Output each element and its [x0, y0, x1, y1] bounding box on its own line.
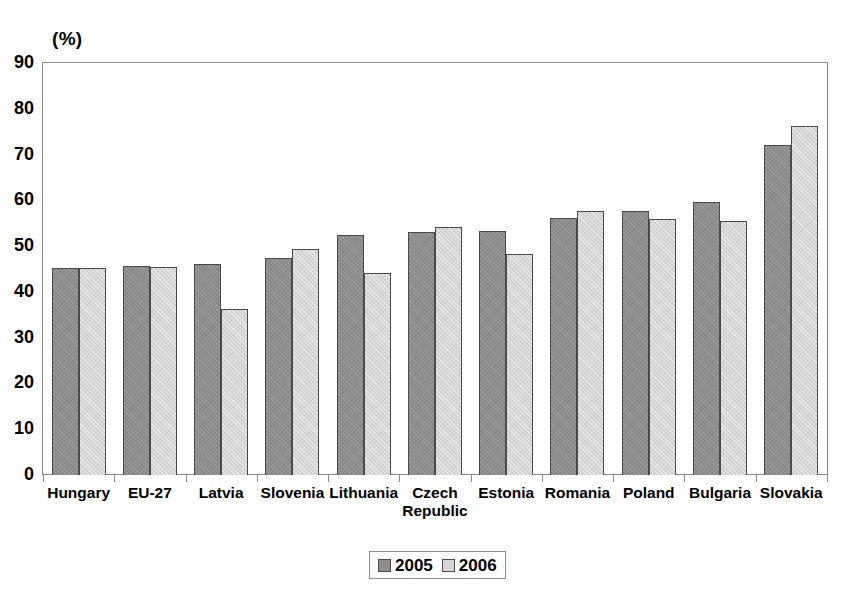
x-tick-mark — [542, 475, 543, 482]
bar-group — [756, 63, 827, 475]
bar-eu-27-2006 — [150, 267, 177, 475]
x-label-slovenia: Slovenia — [257, 484, 328, 520]
bar-group — [542, 63, 613, 475]
chart-legend: 2005 2006 — [369, 551, 506, 579]
y-tick-label-90: 90 — [14, 52, 34, 73]
x-label-bulgaria: Bulgaria — [684, 484, 755, 520]
legend-label-2006: 2006 — [459, 557, 497, 574]
x-tick-mark — [827, 475, 828, 482]
x-label-czech-republic: Czech Republic — [399, 484, 470, 520]
x-label-lithuania: Lithuania — [328, 484, 399, 520]
bar-romania-2005 — [550, 218, 577, 475]
bar-slovenia-2006 — [292, 249, 319, 475]
x-label-slovakia: Slovakia — [756, 484, 827, 520]
bar-romania-2006 — [577, 211, 604, 475]
y-axis-unit-label: (%) — [52, 28, 82, 50]
bar-poland-2006 — [649, 219, 676, 475]
bar-group — [43, 63, 114, 475]
y-tick-label-30: 30 — [14, 326, 34, 347]
bar-group — [684, 63, 755, 475]
bar-group — [613, 63, 684, 475]
x-tick-mark — [257, 475, 258, 482]
x-axis-ticks — [43, 475, 827, 482]
y-tick-label-20: 20 — [14, 372, 34, 393]
y-tick-label-80: 80 — [14, 97, 34, 118]
y-axis: 9080706050403020100 — [0, 62, 42, 475]
bar-hungary-2006 — [79, 268, 106, 475]
bar-group — [399, 63, 470, 475]
y-tick-label-60: 60 — [14, 189, 34, 210]
x-tick-mark — [613, 475, 614, 482]
bar-eu-27-2005 — [123, 266, 150, 475]
bar-group — [114, 63, 185, 475]
x-tick-mark — [328, 475, 329, 482]
x-label-latvia: Latvia — [186, 484, 257, 520]
x-label-hungary: Hungary — [43, 484, 114, 520]
bar-lithuania-2005 — [337, 235, 364, 475]
light-gray-swatch-icon — [442, 559, 455, 572]
x-tick-mark — [399, 475, 400, 482]
bar-group — [257, 63, 328, 475]
bar-poland-2005 — [622, 211, 649, 475]
x-label-poland: Poland — [613, 484, 684, 520]
bar-group — [328, 63, 399, 475]
bar-bulgaria-2005 — [693, 202, 720, 475]
legend-item-2005: 2005 — [378, 557, 433, 574]
bar-latvia-2006 — [221, 309, 248, 475]
y-tick-label-0: 0 — [24, 464, 34, 485]
bar-slovenia-2005 — [265, 258, 292, 475]
dark-gray-swatch-icon — [378, 559, 391, 572]
bar-estonia-2006 — [506, 254, 533, 475]
bar-lithuania-2006 — [364, 273, 391, 475]
y-tick-label-10: 10 — [14, 418, 34, 439]
bar-czech-republic-2005 — [408, 232, 435, 475]
x-tick-mark — [43, 475, 44, 482]
bar-czech-republic-2006 — [435, 227, 462, 475]
legend-label-2005: 2005 — [395, 557, 433, 574]
x-axis-labels: HungaryEU-27LatviaSloveniaLithuaniaCzech… — [43, 484, 827, 520]
x-label-eu-27: EU-27 — [114, 484, 185, 520]
x-tick-mark — [471, 475, 472, 482]
x-label-estonia: Estonia — [471, 484, 542, 520]
bar-latvia-2005 — [194, 264, 221, 475]
bar-bulgaria-2006 — [720, 221, 747, 475]
bar-slovakia-2005 — [764, 145, 791, 475]
y-tick-label-70: 70 — [14, 143, 34, 164]
bar-hungary-2005 — [52, 268, 79, 475]
legend-item-2006: 2006 — [442, 557, 497, 574]
bars-layer — [43, 63, 827, 475]
x-tick-mark — [186, 475, 187, 482]
x-tick-mark — [684, 475, 685, 482]
bar-group — [471, 63, 542, 475]
bar-slovakia-2006 — [791, 126, 818, 475]
y-tick-label-50: 50 — [14, 235, 34, 256]
x-label-romania: Romania — [542, 484, 613, 520]
x-tick-mark — [756, 475, 757, 482]
bar-estonia-2005 — [479, 231, 506, 475]
bar-chart: (%) 9080706050403020100 HungaryEU-27Latv… — [0, 0, 848, 608]
y-tick-label-40: 40 — [14, 280, 34, 301]
x-tick-mark — [114, 475, 115, 482]
bar-group — [186, 63, 257, 475]
